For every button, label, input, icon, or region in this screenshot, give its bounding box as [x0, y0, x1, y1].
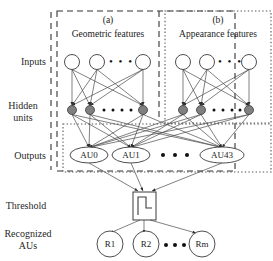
panel-a-input-to-hidden-edges — [72, 70, 143, 106]
panel-a-tag: (a) — [57, 15, 159, 26]
row-label-recognized-line2: AUs — [0, 240, 56, 251]
recognized-au-label-rm: Rm — [184, 240, 220, 249]
figure-canvas: Inputs Hidden units Outputs Threshold Re… — [0, 0, 273, 261]
hidden-node — [68, 106, 77, 115]
row-label-hidden-units-line2: units — [0, 112, 46, 123]
hidden-to-output-edges — [72, 115, 249, 148]
hidden-node — [86, 106, 95, 115]
panel-b-caption: Appearance features — [163, 29, 273, 40]
row-label-inputs: Inputs — [0, 56, 46, 67]
row-label-recognized-line1: Recognized — [0, 228, 56, 239]
output-au-label-au1: AU1 — [112, 151, 150, 160]
row-label-threshold: Threshold — [0, 200, 52, 211]
hidden-nodes — [68, 106, 254, 115]
input-node — [136, 55, 151, 70]
hidden-node — [197, 106, 206, 115]
hidden-node — [179, 106, 188, 115]
input-row-ellipsis-b: • • • — [218, 56, 243, 67]
threshold-to-recognized-edges — [110, 220, 196, 233]
hidden-node — [139, 106, 148, 115]
input-node — [242, 55, 257, 70]
hidden-row-ellipsis-dots — [103, 109, 242, 112]
recognized-au-label-r2: R2 — [128, 240, 164, 249]
panel-a-caption: Geometric features — [57, 29, 159, 40]
threshold-box — [133, 192, 156, 220]
input-node — [90, 55, 105, 70]
input-node — [200, 55, 215, 70]
recognized-row-ellipsis-dots — [164, 243, 186, 247]
row-label-outputs: Outputs — [0, 150, 46, 161]
input-row-ellipsis-a: • • • — [109, 56, 134, 67]
panel-b-tag: (b) — [165, 15, 271, 26]
output-au-label-au0: AU0 — [70, 151, 108, 160]
output-au-label-au43: AU43 — [200, 151, 244, 160]
hidden-node — [245, 106, 254, 115]
output-row-ellipsis-dots — [161, 153, 189, 157]
input-node — [65, 55, 80, 70]
output-to-threshold-edges — [89, 163, 222, 191]
recognized-au-label-r1: R1 — [92, 240, 128, 249]
panel-b-input-to-hidden-edges — [183, 70, 249, 106]
input-node — [176, 55, 191, 70]
row-label-hidden-units-line1: Hidden — [0, 100, 46, 111]
